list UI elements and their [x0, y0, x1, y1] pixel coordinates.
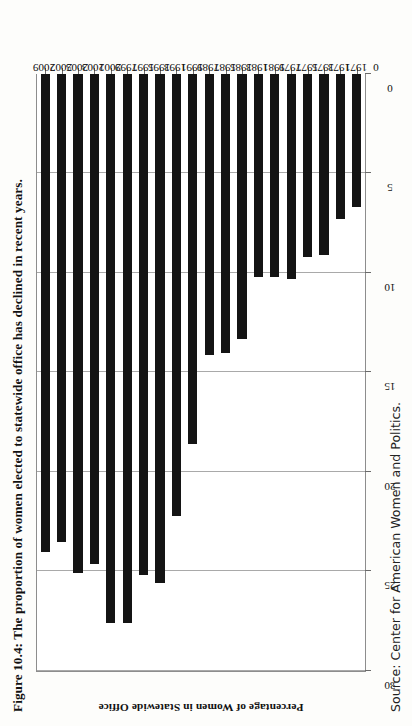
gridline — [37, 372, 365, 373]
y-axis-title-text: Percentage of Women in Statewide Office — [99, 702, 304, 714]
y-axis-title: Percentage of Women in Statewide Office — [36, 700, 366, 716]
chart-frame — [36, 74, 366, 672]
gridline — [37, 670, 365, 671]
rotated-sheet: Figure 10.4: The proportion of women ele… — [0, 0, 412, 726]
bar — [336, 74, 345, 219]
bar-row — [41, 74, 50, 671]
x-tick-label: 2009 — [33, 62, 55, 74]
bar — [221, 74, 230, 353]
bar — [303, 74, 312, 257]
bar — [90, 74, 99, 564]
bar — [106, 74, 115, 623]
bar-row — [270, 74, 279, 671]
bar-row — [139, 74, 148, 671]
bar-row — [254, 74, 263, 671]
bar-row — [319, 74, 328, 671]
axis-tick — [365, 571, 371, 572]
figure-source: Source: Center for American Women and Po… — [388, 12, 403, 712]
axis-tick — [365, 372, 371, 373]
figure-title: Figure 10.4: The proportion of women ele… — [10, 12, 27, 712]
bar-row — [205, 74, 214, 671]
bar-row — [352, 74, 361, 671]
bar — [41, 74, 50, 552]
bar — [254, 74, 263, 277]
bar-row — [73, 74, 82, 671]
bar — [172, 74, 181, 516]
axis-tick — [365, 471, 371, 472]
gridline — [37, 173, 365, 174]
gridline — [37, 571, 365, 572]
x-axis-year-labels: 1971197319751977197919811983198519871989… — [36, 12, 366, 72]
bar — [73, 74, 82, 573]
bar-row — [155, 74, 164, 671]
bar-row — [57, 74, 66, 671]
bar — [205, 74, 214, 355]
axis-tick — [365, 670, 371, 671]
bar — [188, 74, 197, 444]
bar-row — [106, 74, 115, 671]
axis-tick — [365, 173, 371, 174]
bar-row — [90, 74, 99, 671]
bar-row — [287, 74, 296, 671]
bar — [319, 74, 328, 255]
gridline — [37, 272, 365, 273]
gridline — [37, 471, 365, 472]
bar-row — [221, 74, 230, 671]
bar-row — [303, 74, 312, 671]
bar — [139, 74, 148, 575]
chart-plot-area: Percentage of Women in Statewide Office … — [36, 12, 376, 712]
bar — [123, 74, 132, 623]
figure-page: Figure 10.4: The proportion of women ele… — [0, 0, 412, 726]
bar — [57, 74, 66, 542]
bar — [155, 74, 164, 583]
bar-row — [237, 74, 246, 671]
bar-row — [172, 74, 181, 671]
bar — [287, 74, 296, 279]
bar — [237, 74, 246, 339]
zero-axis-label: 0 — [373, 62, 379, 74]
bar-row — [336, 74, 345, 671]
bar-row — [188, 74, 197, 671]
bar — [270, 74, 279, 277]
bar — [352, 74, 361, 207]
bar-row — [123, 74, 132, 671]
axis-tick — [365, 272, 371, 273]
